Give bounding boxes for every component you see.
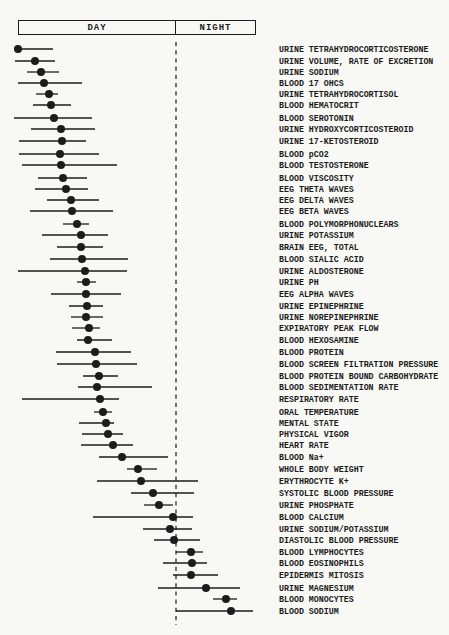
acrophase-dot <box>104 430 112 438</box>
acrophase-dot <box>62 185 70 193</box>
acrophase-dot <box>59 174 67 182</box>
acrophase-dot <box>45 90 53 98</box>
acrophase-dot <box>82 290 90 298</box>
acrophase-dot <box>95 372 103 380</box>
acrophase-dot <box>77 231 85 239</box>
acrophase-dot <box>85 324 93 332</box>
acrophase-dot <box>109 441 117 449</box>
acrophase-dot <box>202 584 210 592</box>
acrophase-dot <box>77 243 85 251</box>
acrophase-dot <box>37 68 45 76</box>
acrophase-dot <box>93 383 101 391</box>
acrophase-dot <box>82 278 90 286</box>
acrophase-dot <box>169 513 177 521</box>
acrophase-dot <box>73 220 81 228</box>
acrophase-dot <box>50 114 58 122</box>
acrophase-dot <box>187 571 195 579</box>
acrophase-dot <box>56 150 64 158</box>
acrophase-dot <box>14 45 22 53</box>
acrophase-dot <box>134 465 142 473</box>
acrophase-dot <box>222 595 230 603</box>
acrophase-dot <box>81 267 89 275</box>
acrophase-dot <box>31 57 39 65</box>
acrophase-dot <box>67 196 75 204</box>
acrophase-dot <box>83 302 91 310</box>
acrophase-dot <box>227 607 235 615</box>
acrophase-dot <box>57 125 65 133</box>
acrophase-dot <box>68 207 76 215</box>
acrophase-dot <box>118 453 126 461</box>
acrophase-dot <box>166 525 174 533</box>
acrophase-dot <box>149 489 157 497</box>
acrophase-dot <box>58 137 66 145</box>
acrophase-figure-page: DAY NIGHT URINE TETRAHYDROCORTICOSTERONE… <box>0 0 449 635</box>
acrophase-dot <box>82 313 90 321</box>
acrophase-dot <box>84 336 92 344</box>
acrophase-dot <box>96 395 104 403</box>
acrophase-dot <box>92 360 100 368</box>
acrophase-dot <box>187 548 195 556</box>
acrophase-chart-canvas <box>0 0 449 635</box>
acrophase-dot <box>99 408 107 416</box>
acrophase-dot <box>102 419 110 427</box>
acrophase-dot <box>40 79 48 87</box>
acrophase-dot <box>57 161 65 169</box>
acrophase-dot <box>47 101 55 109</box>
acrophase-dot <box>188 559 196 567</box>
acrophase-dot <box>91 348 99 356</box>
acrophase-dot <box>137 477 145 485</box>
acrophase-dot <box>170 536 178 544</box>
acrophase-dot <box>78 255 86 263</box>
acrophase-dot <box>155 501 163 509</box>
